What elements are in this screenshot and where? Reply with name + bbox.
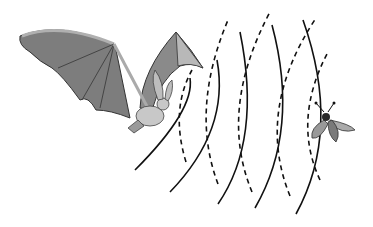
bat <box>20 30 203 133</box>
illustration-svg <box>0 0 373 227</box>
moth <box>312 102 355 143</box>
bat-right-wing <box>140 32 203 110</box>
moth-wing <box>312 120 328 138</box>
moth-body <box>322 113 330 121</box>
bat-ear <box>165 80 173 101</box>
echolocation-illustration: Bat using echolocation: emitted sound wa… <box>0 0 373 227</box>
echo-waves <box>179 12 328 196</box>
